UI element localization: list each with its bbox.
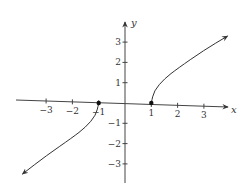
endpoint-dot <box>97 101 101 105</box>
x-tick-label: 3 <box>201 110 207 120</box>
y-tick-label: −3 <box>108 159 122 169</box>
function-graph: −3−2−1123321−1−2−3xy <box>0 0 246 195</box>
x-axis-label: x <box>231 104 237 115</box>
labels: −3−2−1123321−1−2−3xy <box>39 17 237 169</box>
endpoint-dot <box>149 101 153 105</box>
y-tick-label: −1 <box>108 118 121 128</box>
y-tick-label: 2 <box>115 57 121 67</box>
y-tick-label: 1 <box>115 78 121 88</box>
right-branch-curve <box>151 36 227 103</box>
x-tick-label: 2 <box>175 109 181 119</box>
y-tick-label: 3 <box>115 37 121 47</box>
left-branch-curve <box>22 103 98 174</box>
x-tick-label: 1 <box>148 108 154 118</box>
y-axis-label: y <box>130 17 137 28</box>
axes <box>16 22 228 183</box>
x-tick-label: −2 <box>66 106 79 116</box>
x-tick-label: −1 <box>92 107 105 117</box>
y-tick-label: −2 <box>108 139 121 149</box>
graph-svg: −3−2−1123321−1−2−3xy <box>0 0 246 195</box>
x-tick-label: −3 <box>39 105 53 115</box>
